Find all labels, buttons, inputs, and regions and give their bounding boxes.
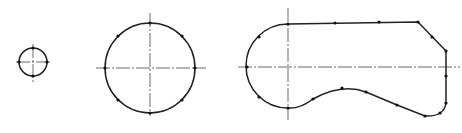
drawing-canvas bbox=[0, 0, 462, 133]
division-point bbox=[17, 60, 20, 63]
division-point bbox=[340, 86, 343, 89]
division-point bbox=[45, 60, 48, 63]
division-point bbox=[148, 21, 151, 24]
division-point bbox=[116, 98, 119, 101]
division-point bbox=[311, 97, 314, 100]
division-point bbox=[31, 74, 34, 77]
division-point bbox=[286, 22, 289, 25]
division-point bbox=[395, 103, 398, 106]
division-point bbox=[257, 95, 260, 98]
division-point bbox=[430, 35, 433, 38]
division-point bbox=[180, 34, 183, 37]
large-circle-figure bbox=[96, 13, 206, 116]
division-point bbox=[148, 111, 151, 114]
division-point bbox=[103, 66, 106, 69]
division-point bbox=[444, 49, 447, 52]
division-point bbox=[364, 90, 367, 93]
division-point bbox=[377, 20, 380, 23]
division-point bbox=[193, 66, 196, 69]
division-point bbox=[438, 111, 441, 114]
division-point bbox=[444, 74, 447, 77]
division-point bbox=[444, 101, 447, 104]
division-point bbox=[333, 21, 336, 24]
division-point bbox=[423, 114, 426, 117]
small-circle-figure bbox=[16, 44, 50, 82]
division-point bbox=[286, 106, 289, 109]
division-point bbox=[416, 20, 419, 23]
division-point bbox=[31, 46, 34, 49]
division-point bbox=[116, 34, 119, 37]
cam-profile-figure bbox=[238, 8, 460, 120]
division-point bbox=[257, 35, 260, 38]
division-point bbox=[180, 98, 183, 101]
division-point bbox=[245, 65, 248, 68]
profile-outline bbox=[246, 22, 446, 116]
